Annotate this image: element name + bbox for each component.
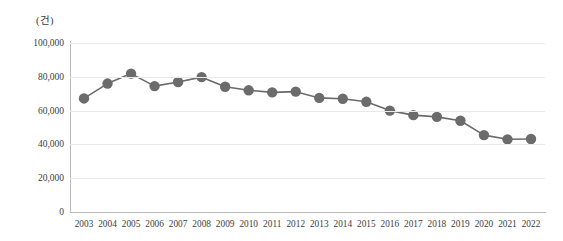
x-axis-tick-label: 2010 bbox=[239, 219, 258, 229]
data-point-marker bbox=[338, 94, 348, 104]
x-axis-tick-label: 2008 bbox=[192, 219, 211, 229]
data-point-marker bbox=[502, 134, 512, 144]
line-chart: (건) 020,00040,00060,00080,000100,000 200… bbox=[0, 0, 563, 241]
x-axis-tick-label: 2011 bbox=[263, 219, 281, 229]
plot-area bbox=[70, 43, 545, 212]
x-axis-tick-label: 2020 bbox=[475, 219, 494, 229]
x-axis-tick-label: 2017 bbox=[404, 219, 423, 229]
x-axis-tick-label: 2007 bbox=[169, 219, 188, 229]
x-axis-tick-label: 2012 bbox=[286, 219, 305, 229]
y-axis-tick-labels: 020,00040,00060,00080,000100,000 bbox=[0, 0, 64, 241]
data-point-marker bbox=[526, 134, 536, 144]
y-axis-tick-label: 0 bbox=[59, 207, 64, 217]
x-axis-tick-label: 2013 bbox=[310, 219, 329, 229]
data-point-marker bbox=[291, 86, 301, 96]
y-axis-tick-label: 100,000 bbox=[33, 38, 64, 48]
y-axis-tick-label: 80,000 bbox=[38, 72, 64, 82]
y-axis-tick-label: 60,000 bbox=[38, 106, 64, 116]
data-point-marker bbox=[173, 77, 183, 87]
gridline bbox=[70, 111, 545, 112]
data-point-marker bbox=[314, 93, 324, 103]
data-point-marker bbox=[267, 87, 277, 97]
y-axis-tick-label: 20,000 bbox=[38, 173, 64, 183]
x-axis-tick-label: 2005 bbox=[122, 219, 141, 229]
x-axis-tick-label: 2009 bbox=[216, 219, 235, 229]
gridline bbox=[70, 144, 545, 145]
data-point-marker bbox=[243, 85, 253, 95]
data-series-line bbox=[70, 43, 545, 212]
x-axis-tick-label: 2022 bbox=[522, 219, 541, 229]
gridline bbox=[70, 43, 545, 44]
x-axis-tick-label: 2016 bbox=[381, 219, 400, 229]
x-axis-tick-label: 2014 bbox=[333, 219, 352, 229]
x-axis-tick-label: 2006 bbox=[145, 219, 164, 229]
data-point-marker bbox=[79, 93, 89, 103]
data-point-marker bbox=[149, 81, 159, 91]
data-point-marker bbox=[479, 130, 489, 140]
data-point-marker bbox=[102, 78, 112, 88]
x-axis-tick-label: 2004 bbox=[98, 219, 117, 229]
data-point-marker bbox=[361, 97, 371, 107]
data-point-marker bbox=[455, 116, 465, 126]
gridline bbox=[70, 77, 545, 78]
data-point-marker bbox=[220, 82, 230, 92]
x-axis-line bbox=[70, 212, 546, 213]
gridline bbox=[70, 178, 545, 179]
x-axis-tick-label: 2019 bbox=[451, 219, 470, 229]
x-axis-tick-labels: 2003200420052006200720082009201020112012… bbox=[70, 219, 546, 237]
data-point-marker bbox=[432, 112, 442, 122]
x-axis-tick-label: 2018 bbox=[428, 219, 447, 229]
x-axis-tick-label: 2015 bbox=[357, 219, 376, 229]
x-axis-tick-label: 2021 bbox=[498, 219, 517, 229]
x-axis-tick-label: 2003 bbox=[75, 219, 94, 229]
y-axis-tick-label: 40,000 bbox=[38, 139, 64, 149]
